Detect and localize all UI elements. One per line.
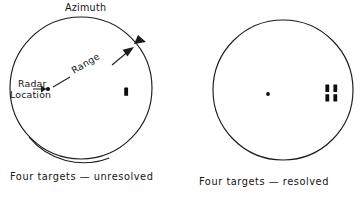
range-arrow-line-inner	[53, 77, 70, 87]
radar-display-circle-resolved	[213, 20, 353, 160]
target-blip-2	[333, 85, 337, 92]
azimuth-arrowhead-icon	[134, 35, 146, 44]
caption-resolved: Four targets — resolved	[199, 176, 329, 187]
target-blip-merged	[124, 88, 128, 96]
radar-location-dot-resolved	[266, 92, 270, 96]
caption-unresolved: Four targets — unresolved	[10, 171, 153, 182]
radar-resolution-figure: Azimuth Radar Location Range Four target…	[0, 0, 364, 198]
radar-location-label-line2: Location	[10, 89, 51, 100]
azimuth-label: Azimuth	[65, 2, 106, 13]
target-blip-1	[325, 85, 329, 92]
target-blip-4	[333, 94, 337, 101]
panel-resolved: Four targets — resolved	[199, 20, 353, 187]
target-blip-3	[325, 94, 329, 101]
range-label: Range	[69, 50, 101, 75]
figure-canvas: Azimuth Radar Location Range Four target…	[0, 0, 364, 198]
panel-unresolved: Azimuth Radar Location Range Four target…	[10, 2, 153, 187]
